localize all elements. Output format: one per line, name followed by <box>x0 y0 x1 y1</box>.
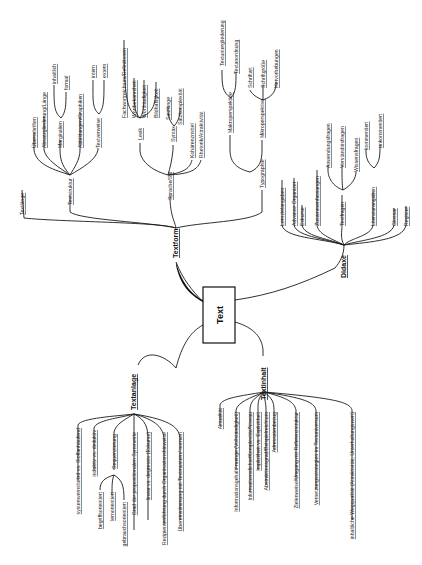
textanlage-tail[interactable]: Übereinstimmung mit Textmustern/-normen <box>177 432 183 531</box>
textfragen-item[interactable]: Verständnisfragen <box>339 126 345 168</box>
lexik-item[interactable]: Worthäufigkeit <box>141 84 147 118</box>
ts-sub[interactable]: formal <box>63 76 69 90</box>
textfragen-item[interactable]: Wissensfragen <box>353 138 359 172</box>
textfragen-label[interactable]: Textfragen <box>339 202 345 226</box>
textanlage-item[interactable]: induktiv vs. deduktiv <box>91 430 97 477</box>
textinhalt-item[interactable]: Implizitheit vs. Explizitheit <box>255 411 261 470</box>
ts-item[interactable]: Marginalien <box>57 121 63 148</box>
center-node[interactable]: Text <box>203 287 235 343</box>
sequenz-item[interactable]: lernorientiert <box>109 491 115 520</box>
textanlage-item[interactable]: systemvermittelnd vs. Stoffanhäufend <box>75 428 81 515</box>
sequenzierung-label[interactable]: Sequenzierung <box>111 434 117 469</box>
literatur-item[interactable]: kommentiert <box>363 121 369 150</box>
textanlage-label: Textanlage <box>130 374 138 410</box>
center-label: Text <box>215 306 225 324</box>
lexik-label[interactable]: Lexik <box>137 127 143 140</box>
sprache-label[interactable]: Sprache/Stil <box>167 172 173 200</box>
didaxe-label: Didaxe <box>340 255 347 278</box>
syntax-item[interactable]: Satzlänge <box>165 97 171 120</box>
textlaenge[interactable]: Textlänge <box>19 193 25 215</box>
textfragen-item[interactable]: Anwendungsfragen <box>325 123 331 168</box>
ts-item[interactable]: Textverweise <box>95 118 101 148</box>
ts-item[interactable]: Abbildungen/Graphiken <box>77 94 83 148</box>
textinhalt-item[interactable]: inhaltliche Wegqualität (Attraktivität, … <box>349 412 355 540</box>
literatur-item[interactable]: unkommentiert <box>377 113 383 148</box>
mikro-label[interactable]: Mikroperspektive <box>259 99 265 138</box>
mikro-item[interactable]: Schriftgröße <box>260 60 266 88</box>
branch-textinhalt[interactable]: Textinhalt Aktualität Informationsgehalt… <box>217 350 355 539</box>
mikro-item[interactable]: Hervorhebungen <box>273 49 279 88</box>
textinhalt-item[interactable]: Adressatenbezug <box>271 412 277 452</box>
textinhalt-item[interactable]: Abstraktionsgrad/Beispielreichtum <box>263 412 269 490</box>
textanlage-tail[interactable]: Rezipientenführung durch Organisationshi… <box>161 432 167 545</box>
ts-item[interactable]: Absatzgliederung/Länge <box>41 92 47 148</box>
ts-sub[interactable]: intern <box>90 65 96 78</box>
textanlage-tail[interactable]: linear vs. degressiv (Exkurse) <box>145 432 151 500</box>
textinhalt-item[interactable]: Vernetzungsstrategien im Textuniversum <box>313 412 319 505</box>
didaxe-tail[interactable]: Register <box>403 206 409 226</box>
mikro-item[interactable]: Schriftart <box>247 67 253 88</box>
makro-item[interactable]: Textanordnung <box>233 40 239 74</box>
didaxe-item[interactable]: Zusammenfassungen <box>314 176 320 226</box>
textinhalt-item[interactable]: Aktualität <box>217 407 223 429</box>
textform-label: Textform <box>172 229 179 258</box>
lexik-item[interactable]: Wortbekanntheit <box>131 80 137 118</box>
didaxe-item[interactable]: Lernzielangaben <box>279 188 285 226</box>
lexik-item[interactable]: Bildhaftigkeit <box>153 88 159 118</box>
textstruktur-label[interactable]: Textstruktur <box>67 178 73 205</box>
makro-item[interactable]: Textuntergliederung <box>219 20 225 66</box>
branch-didaxe[interactable]: Didaxe Lernzielangaben Advance Organizer… <box>279 113 409 278</box>
sequenz-item[interactable]: gebrauchsorientiert <box>121 501 127 546</box>
branch-textform[interactable]: Textform Textlänge Textstruktur Überschr… <box>19 20 279 258</box>
syntax-item[interactable]: Satzkomplexität <box>177 88 183 125</box>
syntax-label[interactable]: Syntax <box>170 126 176 142</box>
literatur-label[interactable]: Literaturangaben <box>370 187 376 226</box>
textinhalt-item[interactable]: Informationsdichte/Komplexität/Niveau <box>247 412 253 501</box>
branch-textanlage[interactable]: Textanlage systemvermittelnd vs. Stoffan… <box>75 355 183 546</box>
makro-label[interactable]: Makroperspektive <box>227 92 233 133</box>
textinhalt-item[interactable]: Zielenweise/Umgang mit Referenzstruktur <box>293 412 299 509</box>
textanlage-tail[interactable]: Grad der propositionalen Symmetrie <box>131 432 137 515</box>
sprache-item[interactable]: Rhetorik/Attraktivität <box>198 111 204 158</box>
ts-sub[interactable]: inhaltlich <box>51 64 57 84</box>
sprache-item[interactable]: Kohärenzmittel <box>189 123 195 158</box>
didaxe-item[interactable]: Exkurse <box>299 207 305 226</box>
ts-sub[interactable]: extern <box>101 63 107 78</box>
lexik-item[interactable]: Fachwortreichtum/Definitionen <box>121 48 127 118</box>
didaxe-item[interactable]: Advance Organizer <box>291 181 297 226</box>
didaxe-tail[interactable]: Glossar <box>391 208 397 226</box>
sequenz-item[interactable]: begriffsorientiert <box>97 491 103 529</box>
ts-item[interactable]: Überschriften <box>31 117 37 148</box>
textinhalt-item[interactable]: Informationsgehalt/-menge (Vollständigke… <box>233 412 239 512</box>
mind-map: Text Textform Textlänge Textstruktur Übe… <box>0 0 422 565</box>
